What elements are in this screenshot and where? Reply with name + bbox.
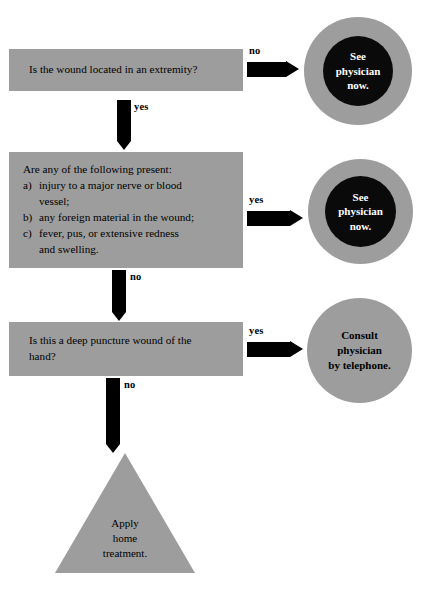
edge-label-q3-yes: yes [249,325,264,336]
symptoms-stem: Are any of the following present: [23,162,235,178]
terminator-see-physician-now-2-core: See physician now. [325,176,396,247]
arrow-shaft [247,62,286,77]
terminator-line-2: physician [336,64,381,79]
symptoms-item-a: a) injury to a major nerve or blood [23,178,235,194]
terminator-line-3: now. [336,78,381,93]
puncture-line-1: Is this a deep puncture wound of the [29,333,233,349]
terminator-line-2: home [55,531,195,546]
symptoms-item-a-marker: a) [23,178,39,194]
arrow-shaft [247,211,290,226]
terminator-line-2: physician [328,343,390,358]
arrow-q3-yes [247,342,303,357]
symptoms-item-b: b) any foreign material in the wound; [23,210,235,226]
symptoms-item-c-marker: c) [23,226,39,242]
arrow-head [112,312,126,321]
terminator-line-3: now. [338,219,383,234]
terminator-line-3: treatment. [55,546,195,561]
terminator-see-physician-now-1-core: See physician now. [323,36,393,106]
decision-box-puncture-wound-hand[interactable]: Is this a deep puncture wound of the han… [9,322,243,376]
arrow-q2-no [112,270,126,321]
terminator-line-1: See [336,49,381,64]
edge-label-q2-no: no [130,271,142,282]
symptoms-item-c-line2: and swelling. [23,242,235,258]
arrow-q1-yes [117,100,131,150]
arrow-q1-no [247,62,299,77]
terminator-line-2: physician [338,204,383,219]
arrow-shaft [117,100,131,141]
arrow-head [117,141,131,150]
terminator-see-physician-now-2[interactable]: See physician now. [308,159,413,264]
symptoms-item-a-line2: vessel; [23,194,235,210]
arrow-head [286,61,299,77]
decision-box-wound-extremity-text: Is the wound located in an extremity? [9,62,243,78]
flowchart-canvas: Is the wound located in an extremity? no… [0,0,431,599]
arrow-head [106,444,120,453]
decision-box-symptoms-present-text: Are any of the following present: a) inj… [9,162,243,257]
arrow-head [290,210,303,226]
edge-label-q3-no: no [124,379,136,390]
terminator-line-1: Consult [328,328,390,343]
terminator-apply-home-treatment-text: Apply home treatment. [55,516,195,562]
puncture-line-2: hand? [29,349,233,365]
terminator-see-physician-now-1-text: See physician now. [336,49,381,93]
edge-label-q2-yes: yes [249,194,264,205]
symptoms-item-b-marker: b) [23,210,39,226]
terminator-line-1: Apply [55,516,195,531]
decision-box-wound-extremity[interactable]: Is the wound located in an extremity? [9,49,243,91]
arrow-shaft [247,342,290,357]
terminator-consult-physician-by-telephone[interactable]: Consult physician by telephone. [307,298,412,403]
terminator-line-3: by telephone. [328,358,390,373]
edge-label-q1-no: no [249,45,261,56]
decision-box-symptoms-present[interactable]: Are any of the following present: a) inj… [9,152,243,268]
terminator-consult-physician-text: Consult physician by telephone. [328,328,390,372]
arrow-q3-no [106,378,120,453]
arrow-shaft [106,378,120,444]
edge-label-q1-yes: yes [134,101,149,112]
symptoms-item-c: c) fever, pus, or extensive redness [23,226,235,242]
decision-box-puncture-wound-hand-text: Is this a deep puncture wound of the han… [9,333,243,365]
terminator-see-physician-now-2-text: See physician now. [338,190,383,234]
symptoms-item-c-line1: fever, pus, or extensive redness [39,226,235,242]
arrow-shaft [112,270,126,312]
terminator-see-physician-now-1[interactable]: See physician now. [304,17,412,125]
terminator-apply-home-treatment[interactable]: Apply home treatment. [55,453,195,573]
symptoms-item-a-line1: injury to a major nerve or blood [39,178,235,194]
symptoms-item-b-line1: any foreign material in the wound; [39,210,235,226]
terminator-line-1: See [338,190,383,205]
arrow-q2-yes [247,211,303,226]
arrow-head [290,341,303,357]
